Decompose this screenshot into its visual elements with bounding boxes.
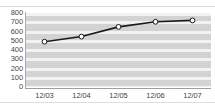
gridline <box>26 86 211 87</box>
y-axis-line <box>25 12 26 89</box>
y-axis-tick-label: 100 <box>11 74 23 82</box>
y-axis-tick-label: 600 <box>11 28 23 36</box>
gridline <box>26 13 211 16</box>
x-axis-tick-label: 12/04 <box>72 91 90 101</box>
x-axis-tick-label: 12/07 <box>183 91 201 101</box>
x-axis-tick-label: 12/05 <box>109 91 127 101</box>
y-axis-tick-label: 0 <box>19 83 23 91</box>
gridline <box>26 68 211 71</box>
x-axis-line <box>25 88 211 89</box>
y-axis-tick-label: 500 <box>11 37 23 45</box>
gridline <box>26 40 211 43</box>
gridline <box>26 58 211 61</box>
x-axis-tick-label: 12/06 <box>146 91 164 101</box>
x-axis-tick-label: 12/03 <box>35 91 53 101</box>
chart-title <box>0 0 215 3</box>
title-divider <box>0 6 215 7</box>
y-axis-tick-label: 700 <box>11 18 23 26</box>
gridline <box>26 21 211 24</box>
gridline <box>26 31 211 34</box>
plot-area <box>26 13 211 87</box>
gridline <box>26 77 211 80</box>
y-axis: 8007006005004003002001000 <box>0 9 25 89</box>
gridline <box>26 49 211 52</box>
y-axis-tick-label: 200 <box>11 65 23 73</box>
line-chart: 8007006005004003002001000 12/0312/0412/0… <box>0 0 215 104</box>
y-axis-tick-label: 400 <box>11 46 23 54</box>
y-axis-tick-label: 300 <box>11 55 23 63</box>
bottom-divider <box>0 102 215 103</box>
y-axis-tick-label: 800 <box>11 9 23 17</box>
